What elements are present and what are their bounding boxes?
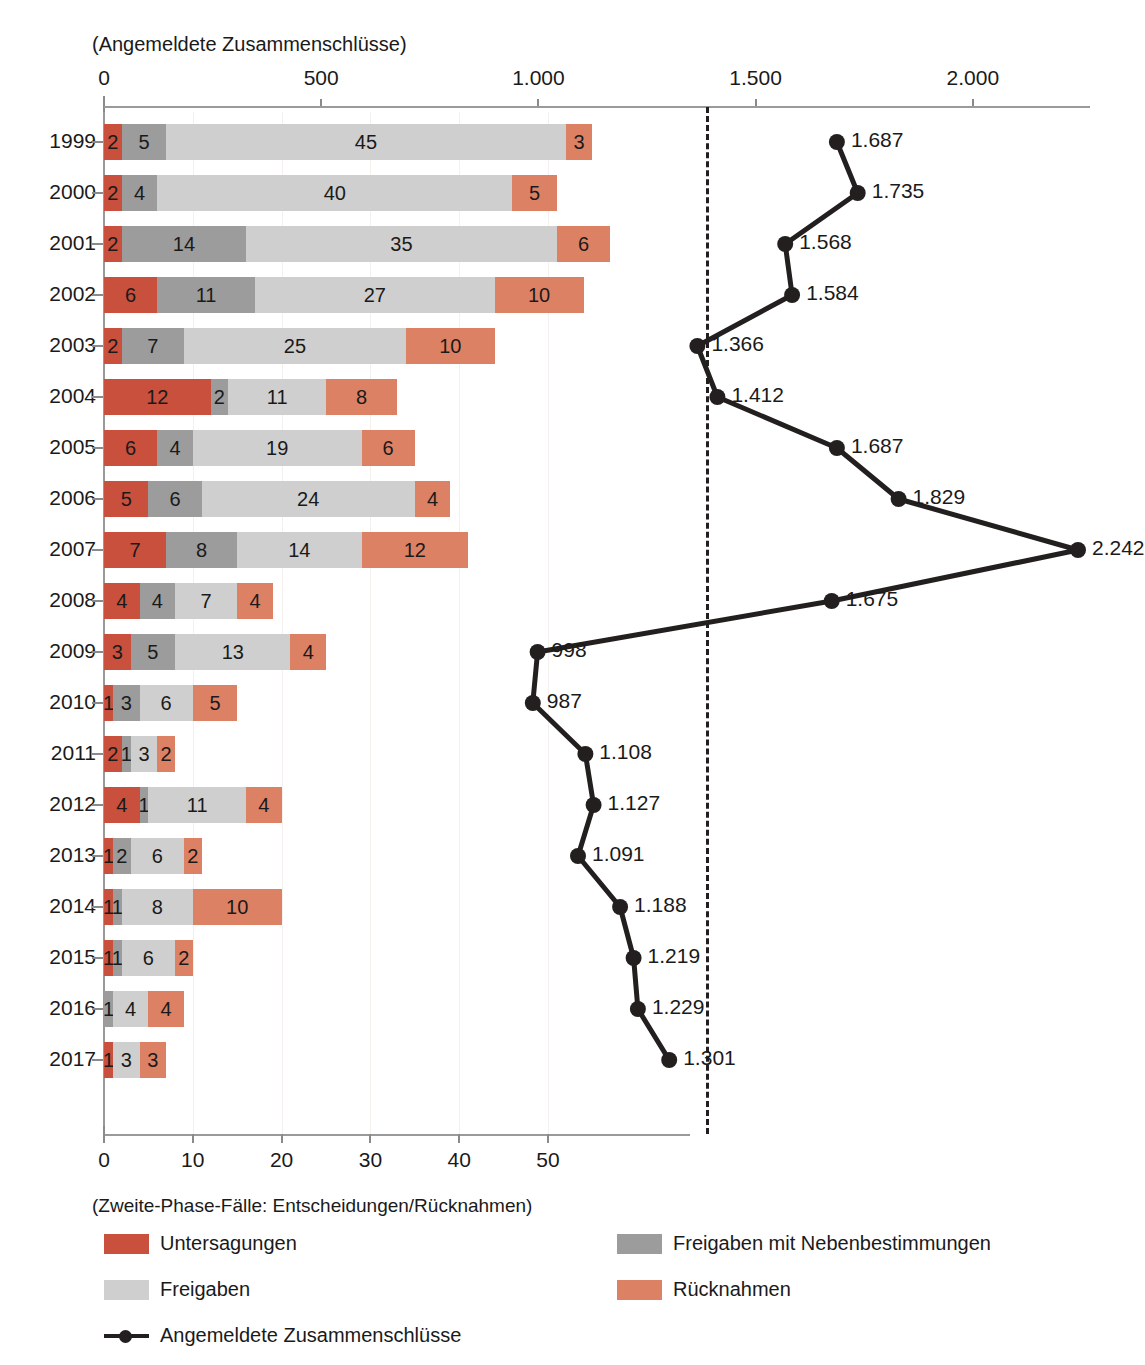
- bar-segment-1[interactable]: 2: [104, 175, 122, 211]
- bar-segment-3[interactable]: 13: [175, 634, 290, 670]
- legend-item-4[interactable]: Rücknahmen: [617, 1278, 791, 1301]
- bar-segment-2[interactable]: 1: [140, 787, 149, 823]
- bar-segment-4[interactable]: 2: [175, 940, 193, 976]
- bar-segment-3[interactable]: 35: [246, 226, 557, 262]
- bar-segment-4[interactable]: 6: [557, 226, 610, 262]
- bar-segment-3[interactable]: 14: [237, 532, 361, 568]
- bar-segment-3[interactable]: 8: [122, 889, 193, 925]
- bar-segment-3[interactable]: 24: [202, 481, 415, 517]
- category-tick: [92, 855, 103, 857]
- bar-segment-1[interactable]: 5: [104, 481, 148, 517]
- bar-segment-2[interactable]: 1: [113, 940, 122, 976]
- bar-segment-1[interactable]: 12: [104, 379, 211, 415]
- bar-segment-2[interactable]: 5: [122, 124, 166, 160]
- bar-segment-4[interactable]: 3: [140, 1042, 167, 1078]
- bar-segment-4[interactable]: 2: [157, 736, 175, 772]
- bar-segment-4[interactable]: 12: [362, 532, 469, 568]
- stacked-bar[interactable]: 11810: [104, 889, 1004, 925]
- bar-segment-3[interactable]: 11: [228, 379, 326, 415]
- bar-segment-3[interactable]: 6: [131, 838, 184, 874]
- bar-segment-4[interactable]: 4: [237, 583, 273, 619]
- line-point-label: 1.091: [592, 842, 645, 866]
- bar-segment-2[interactable]: 8: [166, 532, 237, 568]
- bar-segment-2[interactable]: 4: [157, 430, 193, 466]
- bar-segment-1[interactable]: 7: [104, 532, 166, 568]
- stacked-bar[interactable]: 56244: [104, 481, 1004, 517]
- legend-swatch-icon: [104, 1280, 149, 1300]
- bar-segment-2[interactable]: 1: [122, 736, 131, 772]
- bar-segment-4[interactable]: 2: [184, 838, 202, 874]
- legend-item-5[interactable]: Angemeldete Zusammenschlüsse: [104, 1324, 461, 1347]
- bar-segment-2[interactable]: 14: [122, 226, 246, 262]
- bar-segment-2[interactable]: 2: [211, 379, 229, 415]
- bar-segment-3[interactable]: 45: [166, 124, 566, 160]
- bar-segment-3[interactable]: 4: [113, 991, 149, 1027]
- stacked-bar[interactable]: 272510: [104, 328, 1004, 364]
- bar-segment-4[interactable]: 4: [148, 991, 184, 1027]
- bar-segment-1[interactable]: 6: [104, 430, 157, 466]
- bar-segment-1[interactable]: 1: [104, 1042, 113, 1078]
- bar-segment-4[interactable]: 4: [290, 634, 326, 670]
- bar-segment-4[interactable]: 5: [193, 685, 237, 721]
- bar-segment-2[interactable]: 7: [122, 328, 184, 364]
- bar-segment-3[interactable]: 6: [140, 685, 193, 721]
- bar-segment-2[interactable]: 5: [131, 634, 175, 670]
- bar-segment-3[interactable]: 11: [148, 787, 246, 823]
- bar-segment-3[interactable]: 6: [122, 940, 175, 976]
- bar-segment-4[interactable]: 10: [495, 277, 584, 313]
- stacked-bar[interactable]: 781412: [104, 532, 1004, 568]
- bar-segment-1[interactable]: 6: [104, 277, 157, 313]
- line-point-label: 1.301: [683, 1046, 736, 1070]
- bottom-axis-tick-mark: [547, 1134, 549, 1143]
- bar-segment-3[interactable]: 3: [113, 1042, 140, 1078]
- stacked-bar[interactable]: 133: [104, 1042, 1004, 1078]
- stacked-bar[interactable]: 41114: [104, 787, 1004, 823]
- bar-segment-4[interactable]: 3: [566, 124, 593, 160]
- bar-segment-2[interactable]: 1: [113, 889, 122, 925]
- bar-segment-2[interactable]: 11: [157, 277, 255, 313]
- legend-item-3[interactable]: Freigaben: [104, 1278, 250, 1301]
- bar-segment-2[interactable]: 1: [104, 991, 113, 1027]
- bar-segment-3[interactable]: 19: [193, 430, 362, 466]
- bar-segment-1[interactable]: 1: [104, 685, 113, 721]
- bar-segment-1[interactable]: 2: [104, 124, 122, 160]
- top-axis-tick-label: 1.000: [512, 66, 565, 90]
- legend-item-1[interactable]: Untersagungen: [104, 1232, 297, 1255]
- stacked-bar[interactable]: 1262: [104, 838, 1004, 874]
- bar-segment-3[interactable]: 3: [131, 736, 158, 772]
- bar-segment-4[interactable]: 8: [326, 379, 397, 415]
- bar-segment-3[interactable]: 27: [255, 277, 495, 313]
- legend-item-2[interactable]: Freigaben mit Nebenbestimmungen: [617, 1232, 991, 1255]
- bar-segment-1[interactable]: 1: [104, 838, 113, 874]
- bar-segment-2[interactable]: 2: [113, 838, 131, 874]
- stacked-bar[interactable]: 2132: [104, 736, 1004, 772]
- bar-segment-1[interactable]: 3: [104, 634, 131, 670]
- stacked-bar[interactable]: 1162: [104, 940, 1004, 976]
- bar-segment-2[interactable]: 6: [148, 481, 201, 517]
- bar-segment-4[interactable]: 6: [362, 430, 415, 466]
- bar-segment-4[interactable]: 4: [246, 787, 282, 823]
- stacked-bar[interactable]: 122118: [104, 379, 1004, 415]
- bar-segment-3[interactable]: 25: [184, 328, 406, 364]
- line-point-label: 998: [552, 638, 587, 662]
- bar-segment-2[interactable]: 3: [113, 685, 140, 721]
- category-label: 2016: [26, 996, 96, 1020]
- bar-segment-4[interactable]: 10: [406, 328, 495, 364]
- bar-segment-3[interactable]: 7: [175, 583, 237, 619]
- bar-segment-2[interactable]: 4: [122, 175, 158, 211]
- stacked-bar[interactable]: 24405: [104, 175, 1004, 211]
- bar-segment-4[interactable]: 10: [193, 889, 282, 925]
- stacked-bar[interactable]: 214356: [104, 226, 1004, 262]
- bar-segment-3[interactable]: 40: [157, 175, 512, 211]
- bar-segment-1[interactable]: 2: [104, 736, 122, 772]
- line-point-label: 1.675: [846, 587, 899, 611]
- bar-segment-1[interactable]: 2: [104, 226, 122, 262]
- stacked-bar[interactable]: 6112710: [104, 277, 1004, 313]
- bar-segment-1[interactable]: 4: [104, 583, 140, 619]
- bar-segment-4[interactable]: 4: [415, 481, 451, 517]
- bar-segment-1[interactable]: 2: [104, 328, 122, 364]
- stacked-bar[interactable]: 144: [104, 991, 1004, 1027]
- bar-segment-2[interactable]: 4: [140, 583, 176, 619]
- bar-segment-1[interactable]: 4: [104, 787, 140, 823]
- bar-segment-4[interactable]: 5: [512, 175, 556, 211]
